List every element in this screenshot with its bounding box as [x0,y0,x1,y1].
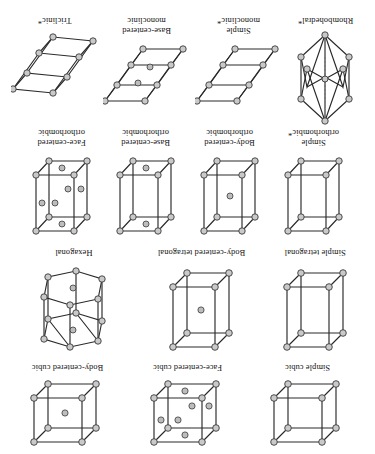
lattice-label: Base-centered monoclinic [122,15,171,34]
lattice-row-tetragonal: Simple tetragonal [0,247,375,355]
lattice-label: Simple orthorhombic* [288,128,339,147]
lattice-label: Simple cubic [285,362,330,372]
face-centered-cubic-diagram [145,374,231,452]
lattice-cell-base-centered-orthorhombic: Base-centered orthorhombic [110,128,182,241]
lattice-label: Body-centered tetragonal [158,247,245,257]
bravais-lattice-figure: Simple cubic [0,0,375,454]
base-centered-orthorhombic-diagram [110,149,182,241]
lattice-label: Face-centered cubic [153,362,222,372]
lattice-cell-triclinic: Triclinic* [12,15,98,103]
body-centered-tetragonal-diagram [162,259,242,355]
face-centered-orthorhombic-diagram [26,149,98,241]
lattice-label: Hexagonal [55,247,92,257]
lattice-label: Simple tetragonal [285,247,346,257]
lattice-cell-base-centered-monoclinic: Base-centered monoclinic [104,15,190,112]
lattice-label: Body-centered cubic [32,362,103,372]
lattice-cell-body-centered-tetragonal: Body-centered tetragonal [158,247,245,355]
lattice-label: Face-centered orthorhombic [37,128,85,147]
simple-cubic-diagram [265,374,351,452]
simple-monoclinic-diagram [196,37,282,113]
lattice-row-cubic: Simple cubic [0,362,375,452]
lattice-cell-body-centered-orthorhombic: Body-centered orthorhombic [194,128,266,241]
lattice-cell-hexagonal: Hexagonal [20,247,128,355]
lattice-label: Rhombohedral* [298,15,353,25]
simple-orthorhombic-diagram [278,149,350,241]
triclinic-diagram [12,27,98,103]
lattice-label: Simple monoclinic* [217,15,260,34]
lattice-row-monoclinic-triclinic: Rhombohedral* Si [0,15,375,127]
lattice-label: Base-centered orthorhombic [121,128,170,147]
simple-tetragonal-diagram [275,259,355,355]
lattice-cell-simple-tetragonal: Simple tetragonal [275,247,355,355]
lattice-label: Body-centered orthorhombic [204,128,255,147]
lattice-cell-simple-cubic: Simple cubic [265,362,351,452]
body-centered-cubic-diagram [25,374,111,452]
lattice-cell-simple-orthorhombic: Simple orthorhombic* [278,128,350,241]
lattice-cell-face-centered-orthorhombic: Face-centered orthorhombic [26,128,98,241]
lattice-label: Triclinic* [38,15,72,25]
rhombohedral-diagram [288,27,364,127]
body-centered-orthorhombic-diagram [194,149,266,241]
lattice-cell-rhombohedral: Rhombohedral* [288,15,364,127]
lattice-cell-body-centered-cubic: Body-centered cubic [25,362,111,452]
hexagonal-diagram [20,259,128,355]
lattice-cell-face-centered-cubic: Face-centered cubic [145,362,231,452]
lattice-cell-simple-monoclinic: Simple monoclinic* [196,15,282,112]
lattice-row-orthorhombic: Simple orthorhombic* [0,128,375,241]
base-centered-monoclinic-diagram [104,37,190,113]
